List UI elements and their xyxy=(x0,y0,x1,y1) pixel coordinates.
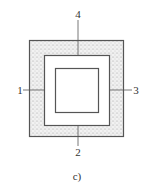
diagram-canvas: 4 2 1 3 c) xyxy=(0,0,148,185)
inner-core xyxy=(56,69,99,113)
label-top: 4 xyxy=(75,8,81,20)
label-bottom: 2 xyxy=(75,146,81,158)
label-left: 1 xyxy=(17,84,23,96)
label-right: 3 xyxy=(133,84,139,96)
figure-caption: c) xyxy=(73,170,82,183)
